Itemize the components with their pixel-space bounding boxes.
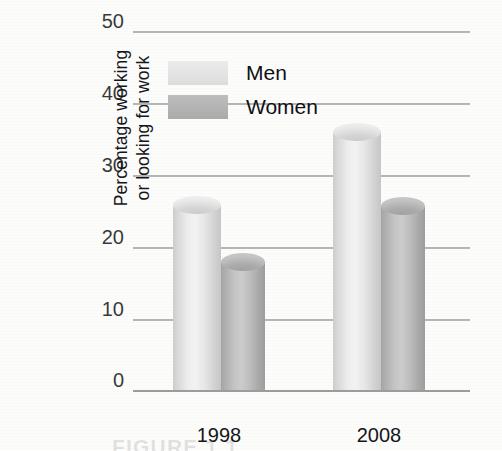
bar-top-cap-icon bbox=[333, 123, 381, 141]
y-tick-label-0: 0 bbox=[113, 370, 124, 390]
chart-legend: Men Women bbox=[168, 56, 318, 124]
bar-1998-men bbox=[173, 205, 221, 390]
legend-item-women: Women bbox=[168, 90, 318, 124]
x-tick-label-2008: 2008 bbox=[339, 424, 419, 447]
bar-top-cap-icon bbox=[381, 197, 425, 215]
bar-body bbox=[381, 206, 425, 390]
bar-top-cap-icon bbox=[173, 196, 221, 214]
bar-2008-women bbox=[381, 206, 425, 390]
y-axis-title-line-1: Percentage working bbox=[110, 50, 132, 206]
bar-1998-women bbox=[221, 262, 265, 390]
bar-body bbox=[333, 132, 381, 390]
y-tick-label-20: 20 bbox=[102, 227, 124, 247]
bar-2008-men bbox=[333, 132, 381, 390]
legend-swatch-women-icon bbox=[168, 95, 228, 119]
legend-label-men: Men bbox=[246, 61, 287, 85]
y-tick-label-50: 50 bbox=[102, 11, 124, 31]
y-tick-label-10: 10 bbox=[102, 299, 124, 319]
bar-body bbox=[221, 262, 265, 390]
legend-swatch-men-icon bbox=[168, 61, 228, 85]
bar-top-cap-icon bbox=[221, 253, 265, 271]
figure-caption: FIGURE 1.1 bbox=[112, 435, 238, 451]
gridline-30: 30 bbox=[133, 175, 470, 177]
y-tick-label-30: 30 bbox=[102, 155, 124, 175]
legend-item-men: Men bbox=[168, 56, 318, 90]
gridline-0: 0 bbox=[133, 390, 470, 392]
gridline-50: 50 bbox=[133, 31, 470, 33]
legend-label-women: Women bbox=[246, 95, 318, 119]
y-tick-label-40: 40 bbox=[102, 83, 124, 103]
bar-body bbox=[173, 205, 221, 390]
